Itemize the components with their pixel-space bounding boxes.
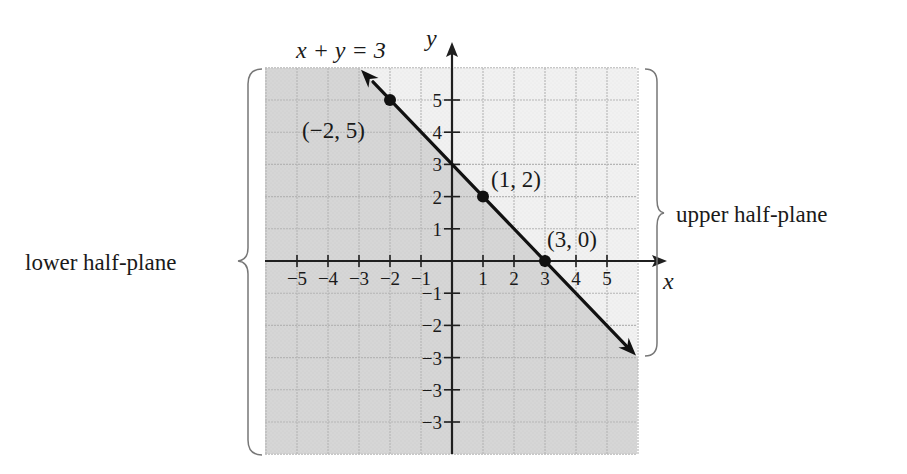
upper-half-plane-brace (645, 69, 664, 356)
x-axis-label: x (662, 268, 674, 294)
y-tick-label: −3 (422, 348, 442, 369)
y-tick-label: 1 (433, 219, 443, 240)
x-tick-label: 5 (602, 268, 612, 289)
x-tick-label: −5 (287, 268, 307, 289)
y-tick-label: 4 (433, 122, 443, 143)
x-tick-label: −3 (349, 268, 369, 289)
y-tick-label: −3 (422, 380, 442, 401)
point-marker (384, 94, 396, 106)
point-label: (1, 2) (491, 167, 541, 192)
x-tick-label: 2 (509, 268, 519, 289)
coordinate-plane: −5−4−3−2−11234512345−1−2−3−3−3 (−2, 5)(1… (0, 0, 907, 474)
y-tick-label: −2 (422, 315, 442, 336)
point-marker (477, 191, 489, 203)
y-tick-label: 5 (433, 90, 443, 111)
lower-half-plane-label: lower half-plane (25, 250, 176, 275)
y-tick-label: −3 (422, 412, 442, 433)
x-tick-label: 1 (478, 268, 488, 289)
x-tick-label: 3 (540, 268, 550, 289)
y-tick-label: −1 (422, 283, 442, 304)
point-label: (3, 0) (547, 227, 597, 252)
y-tick-label: 2 (433, 187, 443, 208)
x-tick-label: 4 (571, 268, 581, 289)
x-tick-label: −4 (318, 268, 339, 289)
y-tick-label: 3 (433, 154, 443, 175)
half-plane-diagram: −5−4−3−2−11234512345−1−2−3−3−3 (−2, 5)(1… (0, 0, 907, 474)
equation-label: x + y = 3 (295, 37, 386, 63)
upper-half-plane-label: upper half-plane (676, 202, 827, 227)
point-marker (539, 255, 551, 267)
lower-half-plane-brace (238, 69, 262, 455)
x-tick-label: −2 (380, 268, 400, 289)
y-axis-label: y (424, 25, 437, 51)
point-label: (−2, 5) (302, 118, 365, 143)
